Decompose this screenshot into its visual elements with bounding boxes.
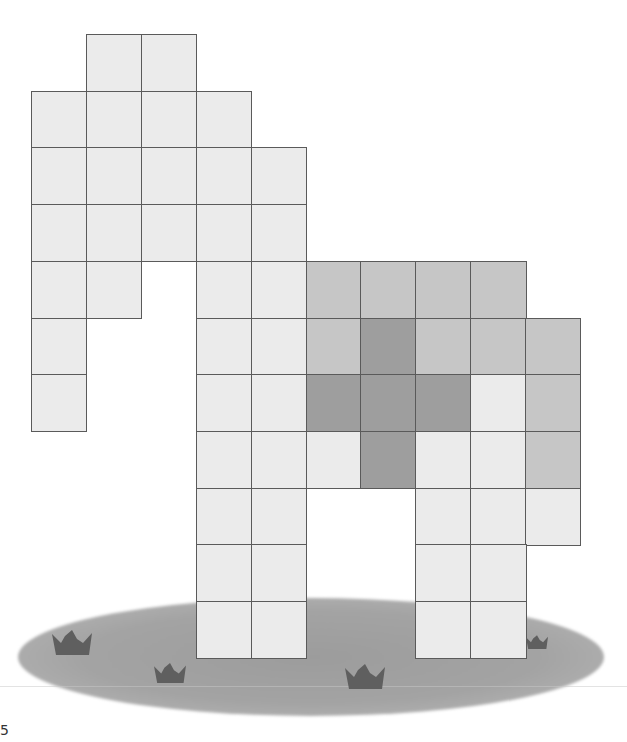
- grid-cell-light: [196, 318, 252, 376]
- page-number: 5: [0, 722, 9, 738]
- grid-cell-mid: [470, 318, 526, 376]
- grid-cell-light: [251, 147, 307, 205]
- grid-cell-light: [251, 431, 307, 489]
- grid-cell-light: [251, 261, 307, 319]
- grid-cell-light: [196, 204, 252, 262]
- grid-cell-light: [251, 374, 307, 432]
- grass-tuft-icon: [345, 664, 385, 689]
- grid-cell-light: [196, 91, 252, 149]
- grid-cell-light: [86, 34, 142, 92]
- grass-tuft-icon: [52, 630, 92, 655]
- grid-cell-light: [525, 488, 581, 546]
- grid-cell-light: [470, 431, 526, 489]
- grid-cell-light: [141, 147, 197, 205]
- grid-cell-light: [415, 431, 471, 489]
- grid-cell-light: [86, 261, 142, 319]
- grid-cell-light: [31, 318, 87, 376]
- grid-cell-light: [470, 601, 526, 659]
- grid-cell-light: [251, 544, 307, 602]
- grid-cell-light: [251, 488, 307, 546]
- grid-cell-light: [415, 488, 471, 546]
- grass-tuft-icon: [154, 663, 186, 683]
- grid-cell-mid: [525, 374, 581, 432]
- grid-cell-light: [31, 91, 87, 149]
- grid-cell-light: [251, 318, 307, 376]
- grid-cell-light: [31, 374, 87, 432]
- grid-cell-light: [470, 544, 526, 602]
- grid-cell-light: [196, 374, 252, 432]
- grid-cell-light: [86, 147, 142, 205]
- grid-cell-light: [306, 431, 362, 489]
- grid-cell-light: [141, 204, 197, 262]
- grid-cell-dark: [415, 374, 471, 432]
- grid-cell-mid: [415, 318, 471, 376]
- grid-cell-dark: [306, 374, 362, 432]
- grid-cell-light: [141, 34, 197, 92]
- grid-cell-light: [196, 601, 252, 659]
- grid-cell-mid: [525, 318, 581, 376]
- grid-cell-light: [31, 261, 87, 319]
- grass-tuft-icon: [526, 630, 548, 654]
- grid-cell-dark: [360, 431, 416, 489]
- grid-cell-light: [196, 261, 252, 319]
- grid-cell-mid: [360, 261, 416, 319]
- grid-cell-dark: [360, 374, 416, 432]
- grid-cell-light: [31, 204, 87, 262]
- grid-cell-mid: [306, 261, 362, 319]
- grid-cell-light: [415, 544, 471, 602]
- grid-cell-mid: [306, 318, 362, 376]
- grid-cell-light: [470, 374, 526, 432]
- grid-cell-mid: [470, 261, 526, 319]
- grid-cell-light: [196, 488, 252, 546]
- grid-cell-light: [196, 147, 252, 205]
- grid-cell-light: [86, 91, 142, 149]
- grid-cell-mid: [415, 261, 471, 319]
- grid-cell-dark: [360, 318, 416, 376]
- grid-cell-light: [196, 431, 252, 489]
- grid-cell-light: [251, 204, 307, 262]
- grid-cell-mid: [525, 431, 581, 489]
- grid-cell-light: [251, 601, 307, 659]
- grid-cell-light: [196, 544, 252, 602]
- grid-cell-light: [470, 488, 526, 546]
- grid-cell-light: [415, 601, 471, 659]
- grid-cell-light: [141, 91, 197, 149]
- grid-cell-light: [31, 147, 87, 205]
- grid-cell-light: [86, 204, 142, 262]
